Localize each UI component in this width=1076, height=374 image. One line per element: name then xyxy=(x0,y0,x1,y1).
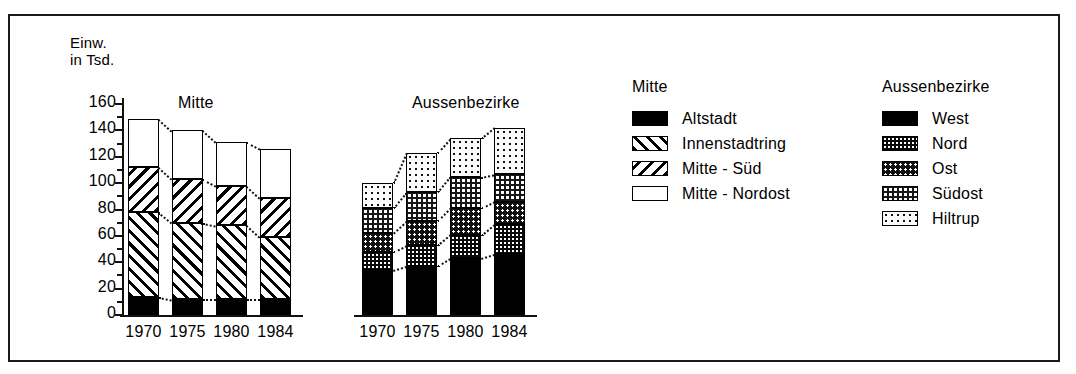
bar-segment xyxy=(362,183,393,208)
y-tick-mark xyxy=(115,103,123,105)
connector-line xyxy=(203,299,216,301)
bar-segment xyxy=(172,130,203,179)
connector-line xyxy=(158,119,172,132)
bar-segment xyxy=(128,297,159,315)
bar-segment xyxy=(128,119,159,168)
y-tick-mark xyxy=(115,209,123,211)
bar-segment xyxy=(362,233,393,251)
connector-line xyxy=(158,167,172,180)
connector-line xyxy=(246,225,260,238)
bar-segment xyxy=(406,245,437,266)
legend-item-s-dost[interactable]: Südost xyxy=(882,181,990,206)
y-tick-label: 40 xyxy=(64,251,116,269)
legend-item-hiltrup[interactable]: Hiltrup xyxy=(882,206,990,231)
connector-line xyxy=(481,254,495,260)
empty-white-swatch-icon xyxy=(632,186,668,201)
connector-line xyxy=(246,186,260,199)
bar-mitte-1970 xyxy=(128,94,159,315)
y-tick-label: 140 xyxy=(64,119,116,137)
bar-segment xyxy=(450,208,481,234)
bar-segment xyxy=(216,225,247,299)
legend-item-innenstadtring[interactable]: Innenstadtring xyxy=(632,131,790,156)
legend-item-mitte-nordost[interactable]: Mitte - Nordost xyxy=(632,181,790,206)
x-axis-mitte xyxy=(120,315,303,317)
bar-segment xyxy=(362,252,393,270)
bar-mitte-1984 xyxy=(260,94,291,315)
y-tick-mark xyxy=(115,288,123,290)
bar-aussenbezirke-1975 xyxy=(406,94,437,315)
legend-item-west[interactable]: West xyxy=(882,106,990,131)
bar-aussenbezirke-1980 xyxy=(450,94,481,315)
connector-line xyxy=(247,299,260,301)
legend-item-altstadt[interactable]: Altstadt xyxy=(632,106,790,131)
bar-segment xyxy=(494,254,525,315)
y-tick-mark-minor xyxy=(117,301,123,303)
y-tick-label: 160 xyxy=(64,93,116,111)
legend-item-label: Mitte - Süd xyxy=(682,160,762,178)
legend-item-label: West xyxy=(932,110,969,128)
figure-frame: Einw. in Tsd. 160140120100806040200Mitte… xyxy=(8,14,1060,362)
bar-mitte-1980 xyxy=(216,94,247,315)
y-axis-title: Einw. in Tsd. xyxy=(70,34,114,68)
legend-item-label: Nord xyxy=(932,135,967,153)
connector-line xyxy=(481,202,495,210)
y-tick-mark xyxy=(115,182,123,184)
legend-aussenbezirke: Aussenbezirke WestNordOstSüdostHiltrup xyxy=(882,78,990,231)
y-tick-mark xyxy=(115,156,123,158)
legend-item-label: Südost xyxy=(932,185,983,203)
bar-segment xyxy=(260,237,291,299)
x-tick-label: 1984 xyxy=(250,323,301,341)
y-tick-mark-minor xyxy=(117,248,123,250)
bar-segment xyxy=(216,299,247,315)
bar-mitte-1975 xyxy=(172,94,203,315)
bar-segment xyxy=(406,192,437,221)
connector-line xyxy=(203,223,216,228)
y-tick-mark-minor xyxy=(117,143,123,145)
bar-segment xyxy=(494,174,525,202)
connector-line xyxy=(393,266,407,272)
dense-dark-dots-swatch-icon xyxy=(882,136,918,151)
connector-line xyxy=(159,297,172,302)
bar-segment xyxy=(494,128,525,174)
connector-line xyxy=(246,142,260,150)
bar-segment xyxy=(362,270,393,315)
light-dots-swatch-icon xyxy=(882,211,918,226)
legend-aussenbezirke-heading: Aussenbezirke xyxy=(882,78,990,96)
connector-line xyxy=(158,212,172,224)
bar-segment xyxy=(260,198,291,238)
legend-item-ost[interactable]: Ost xyxy=(882,156,990,181)
y-tick-mark xyxy=(115,129,123,131)
bar-segment xyxy=(216,186,247,226)
connector-line xyxy=(202,130,216,143)
bar-segment xyxy=(172,179,203,223)
bar-segment xyxy=(494,224,525,254)
bar-segment xyxy=(494,202,525,224)
y-tick-mark-minor xyxy=(117,169,123,171)
bar-segment xyxy=(406,266,437,315)
legend-mitte-heading: Mitte xyxy=(632,78,790,96)
figure-root: Einw. in Tsd. 160140120100806040200Mitte… xyxy=(0,0,1076,374)
y-tick-mark xyxy=(115,235,123,237)
y-tick-label: 80 xyxy=(64,199,116,217)
connector-line xyxy=(202,179,216,187)
bar-segment xyxy=(128,167,159,212)
bar-segment xyxy=(172,299,203,315)
bar-segment xyxy=(260,299,291,315)
connector-line xyxy=(393,245,407,253)
y-tick-mark-minor xyxy=(117,116,123,118)
legend-item-nord[interactable]: Nord xyxy=(882,131,990,156)
bar-aussenbezirke-1970 xyxy=(362,94,393,315)
bar-segment xyxy=(406,153,437,193)
y-tick-mark-minor xyxy=(117,195,123,197)
bar-aussenbezirke-1984 xyxy=(494,94,525,315)
x-axis-aussenbezirke xyxy=(354,315,537,317)
y-tick-label: 20 xyxy=(64,278,116,296)
x-tick-label: 1984 xyxy=(484,323,535,341)
bar-segment xyxy=(260,149,291,198)
y-tick-label: 60 xyxy=(64,225,116,243)
y-tick-mark-minor xyxy=(117,222,123,224)
legend-item-label: Altstadt xyxy=(682,110,737,128)
legend-item-mitte-s-d[interactable]: Mitte - Süd xyxy=(632,156,790,181)
bar-segment xyxy=(172,223,203,299)
connector-line xyxy=(481,174,494,179)
